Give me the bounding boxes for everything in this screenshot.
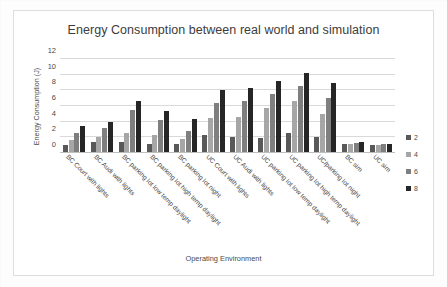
bar <box>258 138 263 153</box>
bar <box>152 135 157 153</box>
bar <box>214 103 219 153</box>
legend-swatch <box>406 135 411 140</box>
bar-group <box>116 59 144 153</box>
bar <box>130 110 135 153</box>
plot-area: 024681012 <box>60 59 395 153</box>
bar <box>192 119 197 153</box>
bar <box>96 137 101 153</box>
bar <box>124 133 129 153</box>
chart-title: Energy Consumption between real world an… <box>14 23 433 37</box>
legend-label: 2 <box>414 134 418 141</box>
x-axis-title: Operating Environment <box>14 254 433 263</box>
y-axis-tick-label: 10 <box>48 61 56 70</box>
y-axis-tick-label: 4 <box>52 108 56 117</box>
bar <box>164 111 169 153</box>
bar <box>180 139 185 153</box>
bar <box>136 101 141 153</box>
bar <box>276 81 281 153</box>
bar-group <box>311 59 339 153</box>
bar <box>80 126 85 153</box>
bar <box>331 83 336 154</box>
bar <box>74 133 79 153</box>
bar <box>298 86 303 153</box>
bar <box>314 137 319 153</box>
legend-swatch <box>406 169 411 174</box>
y-axis-tick-label: 12 <box>48 46 56 55</box>
bar-group <box>88 59 116 153</box>
legend-label: 4 <box>414 151 418 158</box>
bar <box>264 108 269 153</box>
bar <box>108 122 113 153</box>
bar <box>69 140 74 153</box>
bar <box>186 131 191 153</box>
legend-swatch <box>406 186 411 191</box>
y-axis-tick-label: 8 <box>52 77 56 86</box>
bar-group <box>144 59 172 153</box>
legend-item[interactable]: 8 <box>406 180 436 197</box>
legend-item[interactable]: 2 <box>406 129 436 146</box>
bar <box>292 101 297 153</box>
y-axis-tick-label: 6 <box>52 93 56 102</box>
bar <box>320 114 325 153</box>
bar <box>208 118 213 153</box>
legend-label: 8 <box>414 185 418 192</box>
bar <box>304 73 309 153</box>
legend-label: 6 <box>414 168 418 175</box>
bar-group <box>367 59 395 153</box>
y-axis-title-label: Energy Consumption (J) <box>33 67 42 145</box>
bar <box>242 101 247 153</box>
legend-item[interactable]: 6 <box>406 163 436 180</box>
bar-group <box>339 59 367 153</box>
bar <box>248 88 253 153</box>
chart-container: Energy Consumption between real world an… <box>13 10 434 276</box>
bar-group <box>228 59 256 153</box>
bar-group <box>60 59 88 153</box>
legend-swatch <box>406 152 411 157</box>
bar-group <box>283 59 311 153</box>
y-axis-title: Energy Consumption (J) <box>31 59 43 153</box>
x-axis-category-labels: BC Court with lightsBC Audi with lightsB… <box>60 153 395 243</box>
bar <box>102 128 107 153</box>
bar-groups <box>60 59 395 153</box>
bar <box>236 117 241 153</box>
bar <box>220 90 225 153</box>
legend-item[interactable]: 4 <box>406 146 436 163</box>
bar-group <box>200 59 228 153</box>
x-axis-category-label: BC sim <box>344 153 364 173</box>
bar-group <box>172 59 200 153</box>
bar <box>270 94 275 153</box>
bar-group <box>255 59 283 153</box>
bar <box>202 135 207 153</box>
bar <box>230 137 235 153</box>
y-axis-tick-label: 0 <box>52 140 56 149</box>
bar <box>286 133 291 153</box>
chart-legend: 2468 <box>406 129 436 197</box>
y-axis-tick-label: 2 <box>52 124 56 133</box>
bar <box>326 98 331 153</box>
x-axis-category-label: UC sim <box>372 153 392 173</box>
bar <box>158 120 163 153</box>
